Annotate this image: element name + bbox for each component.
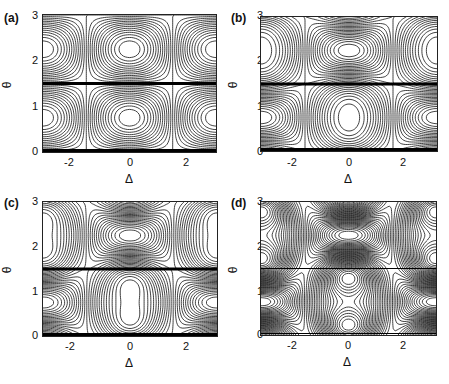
x-tick: 0: [339, 156, 359, 168]
x-tick: -2: [282, 339, 302, 351]
x-tick: 2: [176, 156, 196, 168]
y-axis-label: θ: [226, 82, 240, 89]
y-tick: 2: [28, 54, 38, 66]
panel-label: (d): [231, 196, 246, 210]
x-tick: -2: [282, 156, 302, 168]
x-axis-label: Δ: [343, 355, 351, 369]
panel-label: (b): [231, 11, 246, 25]
x-tick: -2: [60, 340, 80, 352]
y-tick: 0: [28, 145, 38, 157]
y-tick: 0: [28, 329, 38, 341]
contour-plot-a: [43, 15, 216, 152]
x-axis-label: Δ: [125, 356, 133, 370]
y-tick: 1: [28, 285, 38, 297]
x-tick: 0: [120, 156, 140, 168]
y-axis-label: θ: [226, 267, 240, 274]
x-tick: 2: [393, 339, 413, 351]
y-tick: 2: [28, 240, 38, 252]
panel-label: (c): [4, 196, 19, 210]
y-tick: 1: [28, 100, 38, 112]
x-tick: -2: [59, 156, 79, 168]
x-tick: 2: [393, 156, 413, 168]
x-tick: 0: [120, 340, 140, 352]
x-axis-label: Δ: [344, 172, 352, 186]
y-axis-label: θ: [0, 82, 14, 89]
y-tick: 3: [28, 195, 38, 207]
contour-plot-d: [261, 202, 436, 335]
x-tick: 0: [338, 339, 358, 351]
y-axis-label: θ: [0, 267, 14, 274]
contour-plot-c: [43, 202, 217, 336]
y-tick: 3: [28, 9, 38, 21]
panel-label: (a): [4, 11, 19, 25]
x-tick: 2: [176, 340, 196, 352]
contour-plot-b: [261, 17, 437, 151]
x-axis-label: Δ: [125, 172, 133, 186]
